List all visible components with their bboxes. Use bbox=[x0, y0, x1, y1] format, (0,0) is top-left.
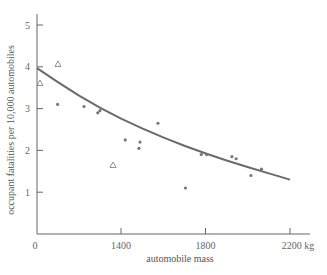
dot-marker bbox=[56, 103, 59, 106]
y-tick-label: 4 bbox=[25, 61, 30, 72]
dot-marker bbox=[260, 168, 263, 171]
dot-marker bbox=[138, 140, 141, 143]
triangle-marker bbox=[110, 162, 116, 168]
dot-marker bbox=[124, 138, 127, 141]
dot-marker bbox=[200, 153, 203, 156]
triangle-marker bbox=[55, 61, 61, 67]
x-tick-label: 1400 bbox=[111, 240, 131, 251]
x-axis-title: automobile mass bbox=[146, 253, 214, 264]
dot-marker bbox=[249, 174, 252, 177]
y-tick-label: 3 bbox=[25, 103, 30, 114]
dot-marker bbox=[230, 155, 233, 158]
axes bbox=[37, 14, 310, 234]
dot-marker bbox=[235, 157, 238, 160]
y-tick-label: 5 bbox=[25, 20, 30, 31]
axis-labels: 123450140018002200 kg bbox=[25, 20, 314, 252]
y-tick-label: 1 bbox=[25, 187, 30, 198]
dot-marker bbox=[184, 186, 187, 189]
dot-marker bbox=[205, 153, 208, 156]
dot-marker bbox=[137, 147, 140, 150]
trend-curve bbox=[37, 68, 290, 180]
dot-marker bbox=[82, 105, 85, 108]
dot-marker bbox=[156, 122, 159, 125]
x-tick-label: 1800 bbox=[196, 240, 216, 251]
scatter-chart: 123450140018002200 kg automobile mass oc… bbox=[0, 0, 327, 275]
triangle-marker bbox=[37, 80, 43, 86]
dot-marker bbox=[98, 109, 101, 112]
x-tick-label: 2200 kg bbox=[282, 240, 315, 251]
x-tick-label: 0 bbox=[33, 240, 38, 251]
fit-curve-path bbox=[37, 68, 290, 180]
data-points bbox=[37, 61, 263, 190]
y-axis-title: occupant fatalities per 10,000 automobil… bbox=[5, 45, 16, 215]
y-tick-label: 2 bbox=[25, 145, 30, 156]
